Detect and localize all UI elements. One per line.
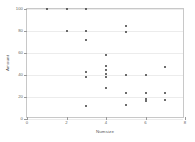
gridline-horizontal [27,31,183,32]
data-point [125,31,127,33]
data-point [164,66,166,68]
data-point [105,54,107,56]
data-point [85,8,87,10]
data-point [125,74,127,76]
data-point [85,105,87,107]
y-tick-mark [24,75,27,76]
x-tick-label: 4 [105,121,107,125]
data-point [145,100,147,102]
x-tick-label: 2 [65,121,67,125]
data-point [66,30,68,32]
scatter-chart-figure: 020406080100 02468 Numsize Amount [0,0,195,142]
y-tick-mark [24,31,27,32]
y-tick-label: 60 [18,51,23,55]
data-point [105,65,107,67]
y-axis-title: Amount [6,55,10,71]
y-tick-label: 40 [18,73,23,77]
x-axis-title: Numsize [26,130,184,134]
y-tick-label: 0 [21,117,23,121]
data-point [125,25,127,27]
data-point [85,30,87,32]
y-tick-mark [24,9,27,10]
gridline-horizontal [27,97,183,98]
data-point [85,71,87,73]
x-tick-label: 8 [184,121,186,125]
data-point [145,92,147,94]
data-point [66,8,68,10]
data-point [105,69,107,71]
data-point [164,92,166,94]
data-point [105,76,107,78]
data-point [164,99,166,101]
y-tick-mark [24,53,27,54]
data-point [125,104,127,106]
gridline-horizontal [27,9,183,10]
data-point [105,87,107,89]
y-tick-label: 20 [18,95,23,99]
y-tick-mark [24,97,27,98]
data-point [85,39,87,41]
y-tick-label: 100 [16,7,23,11]
x-tick-label: 0 [26,121,28,125]
x-tick-label: 6 [144,121,146,125]
plot-area: 020406080100 02468 [26,8,184,118]
data-point [46,8,48,10]
data-point [105,73,107,75]
data-point [85,76,87,78]
y-tick-label: 80 [18,29,23,33]
data-point [125,92,127,94]
data-point [145,74,147,76]
